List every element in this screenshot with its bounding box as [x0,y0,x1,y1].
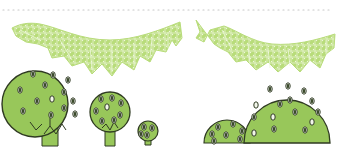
tree-crown [2,71,68,137]
garland-left [12,22,182,76]
bush-small [204,120,250,144]
garland-right [196,20,335,72]
illustration-canvas [0,0,348,160]
forest-illustration [0,0,348,160]
tree-medium [90,92,130,146]
tree-small [138,121,158,145]
tree-large [2,71,77,146]
bush-large [244,83,330,143]
